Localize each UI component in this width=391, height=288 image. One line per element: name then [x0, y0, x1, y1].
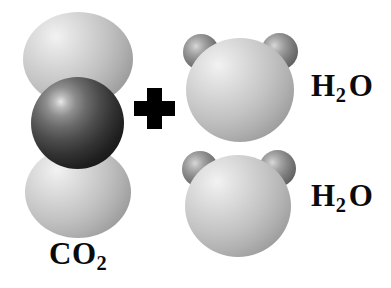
- label-co2-element: CO: [49, 236, 97, 271]
- label-h2o-bottom: H2O: [311, 180, 373, 211]
- label-h2o-bottom-tail: O: [349, 178, 374, 213]
- plus-vertical-bar: [147, 88, 162, 129]
- label-h2o-bottom-element: H: [311, 178, 336, 213]
- atom-carbon: [31, 77, 124, 169]
- molecule-diagram: CO2 H2O H2O: [0, 0, 391, 288]
- label-h2o-bottom-subscript: 2: [336, 194, 346, 216]
- label-h2o-top-element: H: [311, 68, 336, 103]
- label-co2-subscript: 2: [97, 252, 107, 274]
- label-h2o-top: H2O: [311, 70, 373, 101]
- label-co2: CO2: [49, 238, 107, 269]
- label-h2o-top-tail: O: [349, 68, 374, 103]
- label-h2o-top-subscript: 2: [336, 84, 346, 106]
- atom-oxygen-water-bottom: [185, 155, 291, 257]
- plus-icon: [134, 88, 175, 129]
- atom-oxygen-water-top: [186, 38, 294, 142]
